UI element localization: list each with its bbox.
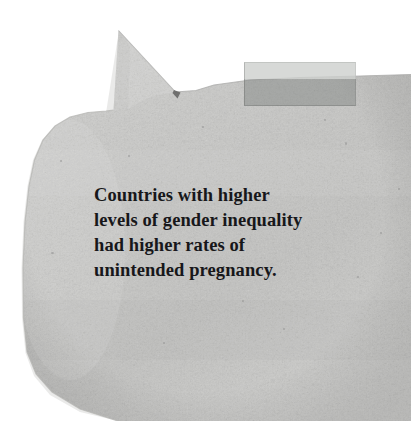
quote-line-3: had higher rates of <box>94 233 354 258</box>
quote-line-4: unintended pregnancy. <box>94 258 354 283</box>
paper-speck <box>283 328 285 330</box>
paper-speck <box>345 142 347 145</box>
paper-speck <box>163 342 165 344</box>
paper-speck <box>380 232 382 234</box>
tape-lower-half <box>244 79 356 106</box>
paper-speck <box>128 155 130 157</box>
paper-speck <box>242 300 244 302</box>
paper-speck <box>398 188 400 190</box>
screenshot-canvas: Countries with higher levels of gender i… <box>0 0 411 421</box>
adhesive-tape-strip <box>244 62 356 106</box>
quote-line-2: levels of gender inequality <box>94 208 354 233</box>
quote-line-1: Countries with higher <box>94 183 354 208</box>
paper-speck <box>324 119 326 121</box>
tape-upper-half <box>244 62 356 79</box>
paper-speck <box>51 252 54 254</box>
quote-text: Countries with higher levels of gender i… <box>94 183 354 283</box>
paper-speck <box>357 276 359 278</box>
paper-speck <box>202 126 204 128</box>
paper-speck <box>60 160 62 162</box>
